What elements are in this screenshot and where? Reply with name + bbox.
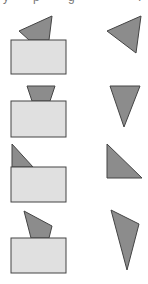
- composite-shape: [24, 211, 52, 238]
- row-4: [11, 210, 139, 273]
- isolated-shape: [107, 144, 142, 178]
- isolated-shape: [110, 86, 140, 127]
- base-rectangle: [11, 167, 66, 202]
- base-rectangle: [11, 101, 66, 137]
- base-rectangle: [11, 40, 66, 74]
- row-3: [11, 144, 142, 202]
- base-rectangle: [11, 238, 66, 273]
- shape-diagram: [0, 0, 148, 284]
- composite-shape: [19, 16, 52, 40]
- composite-shape: [27, 86, 55, 101]
- isolated-shape: [107, 16, 141, 53]
- row-1: [11, 16, 141, 74]
- row-2: [11, 86, 140, 137]
- isolated-shape: [111, 210, 139, 270]
- composite-shape: [12, 144, 33, 167]
